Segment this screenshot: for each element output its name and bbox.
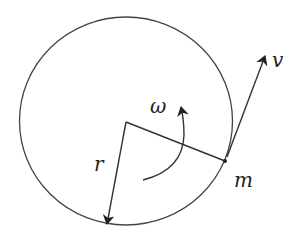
mass-point (223, 159, 227, 163)
circle-path (20, 17, 233, 225)
velocity-label: v (272, 50, 283, 70)
radius-label: r (94, 154, 104, 174)
radius-line-to-mass (126, 122, 225, 161)
velocity-arrow (227, 56, 265, 157)
mass-label: m (234, 170, 253, 190)
omega-label: ω (150, 96, 166, 116)
radius-arrow (107, 122, 126, 224)
circular-motion-diagram (0, 0, 295, 238)
